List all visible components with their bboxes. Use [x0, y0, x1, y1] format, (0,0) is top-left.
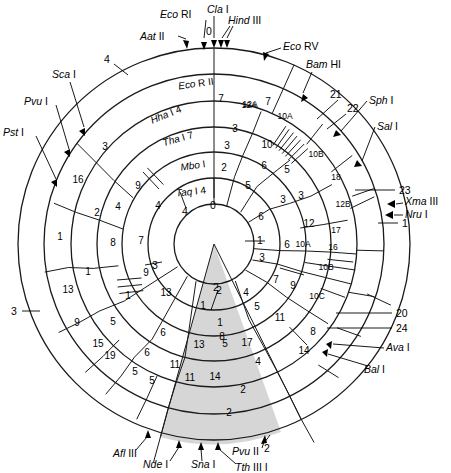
svg-text:11: 11 — [185, 372, 196, 383]
svg-text:12: 12 — [303, 218, 315, 229]
svg-text:17: 17 — [331, 225, 341, 235]
origin-zero: 0 — [206, 25, 212, 37]
label-sphi: Sph I — [369, 94, 394, 106]
svg-text:5: 5 — [284, 164, 290, 175]
label-psti: Pst I — [3, 126, 24, 138]
svg-text:10B: 10B — [318, 262, 333, 272]
svg-text:5: 5 — [222, 338, 228, 349]
label-xmaiii: Xma III — [404, 195, 438, 207]
svg-text:3: 3 — [224, 140, 230, 151]
ring-label-hhai: Hha I 4 — [149, 103, 183, 125]
leader-num-24: 24 — [396, 322, 408, 334]
label-bamhi: Bam HI — [306, 58, 341, 70]
label-sali: Sal I — [377, 120, 398, 132]
label-avai: Ava I — [385, 341, 410, 353]
svg-text:13: 13 — [62, 284, 74, 295]
svg-text:3: 3 — [298, 190, 304, 201]
label-ecorv: Eco RV — [283, 40, 318, 52]
svg-text:6: 6 — [160, 327, 166, 338]
svg-text:1: 1 — [85, 266, 91, 277]
svg-text:3: 3 — [259, 252, 265, 263]
svg-text:10A: 10A — [295, 239, 310, 249]
svg-text:9: 9 — [290, 280, 296, 291]
svg-text:1: 1 — [125, 290, 131, 301]
svg-text:10C: 10C — [309, 291, 325, 301]
svg-text:10B: 10B — [308, 149, 323, 159]
svg-text:9: 9 — [135, 180, 141, 191]
svg-text:5: 5 — [132, 366, 138, 377]
svg-text:1: 1 — [200, 300, 206, 311]
svg-text:13: 13 — [160, 287, 172, 298]
ring-label-taqi: Taq I 4 — [175, 184, 207, 198]
label-ndei: Nde I — [143, 458, 168, 470]
leader-num-4-taq: 4 — [182, 205, 188, 217]
leader-num-20: 20 — [396, 307, 408, 319]
label-snai: Sna I — [191, 458, 216, 470]
svg-text:7: 7 — [273, 274, 279, 285]
svg-text:1: 1 — [217, 317, 223, 328]
svg-text:4: 4 — [155, 200, 161, 211]
svg-text:7: 7 — [138, 235, 144, 246]
svg-text:14: 14 — [209, 371, 221, 382]
label-pvuii: Pvu II — [232, 445, 259, 457]
svg-text:3: 3 — [280, 194, 286, 205]
svg-text:3: 3 — [102, 141, 108, 152]
svg-text:10A: 10A — [277, 111, 292, 121]
svg-text:8: 8 — [110, 237, 116, 248]
label-pvui: Pvu I — [24, 95, 48, 107]
svg-text:13: 13 — [193, 339, 205, 350]
circular-restriction-map: Eco R II Hha I 4 Tha I 7 Mbo I Taq I 4 3… — [0, 0, 451, 473]
svg-text:7: 7 — [218, 93, 224, 104]
label-scai: Sca I — [52, 68, 76, 80]
svg-text:2: 2 — [226, 407, 232, 418]
svg-text:16: 16 — [328, 242, 338, 252]
leader-num-3-center: 3 — [152, 259, 158, 271]
svg-text:10: 10 — [261, 139, 273, 150]
svg-text:12B: 12B — [335, 199, 350, 209]
svg-text:5: 5 — [110, 316, 116, 327]
svg-text:6: 6 — [261, 160, 267, 171]
svg-text:11: 11 — [170, 359, 181, 370]
svg-text:2: 2 — [94, 207, 100, 218]
svg-text:7: 7 — [265, 96, 271, 107]
leader-num-1-center: 1 — [257, 234, 263, 246]
svg-text:16: 16 — [72, 174, 84, 185]
svg-text:5: 5 — [149, 375, 155, 386]
label-tthiiii: Tth III I — [235, 461, 268, 473]
ring-label-ecorii: Eco R II — [177, 75, 214, 91]
svg-text:6: 6 — [144, 347, 150, 358]
label-bali: Bal I — [364, 363, 385, 375]
svg-text:3: 3 — [232, 123, 238, 134]
ring-label-mboi: Mbo I — [180, 158, 206, 172]
svg-text:4: 4 — [115, 201, 121, 212]
leader-num-2-bottom: 2 — [264, 442, 270, 454]
svg-text:11: 11 — [275, 312, 286, 323]
leader-num-4: 4 — [104, 53, 110, 65]
svg-text:4: 4 — [243, 287, 249, 298]
svg-text:18: 18 — [331, 172, 341, 182]
svg-text:15: 15 — [92, 338, 104, 349]
ring-label-thai: Tha I 7 — [161, 128, 194, 147]
svg-text:1: 1 — [57, 231, 63, 242]
svg-text:2: 2 — [240, 384, 246, 395]
svg-text:6: 6 — [284, 239, 290, 250]
leader-num-2-wedge: 2 — [213, 281, 219, 293]
svg-text:2: 2 — [221, 162, 227, 173]
svg-text:9: 9 — [74, 317, 80, 328]
svg-text:17: 17 — [241, 337, 253, 348]
leader-num-0-inner: 0 — [210, 199, 216, 211]
svg-text:4: 4 — [255, 356, 261, 367]
label-afliii: Afl III — [112, 447, 137, 459]
label-aatii: Aat II — [139, 30, 165, 42]
svg-text:14: 14 — [298, 345, 310, 356]
label-nrui: Nru I — [405, 208, 428, 220]
label-ecori: Eco RI — [160, 8, 192, 20]
leader-num-21: 21 — [330, 88, 342, 100]
svg-text:5: 5 — [245, 180, 251, 191]
svg-text:6: 6 — [258, 211, 264, 222]
svg-text:12A: 12A — [241, 100, 256, 110]
label-hindiii: Hind III — [228, 14, 261, 26]
svg-text:9: 9 — [143, 267, 149, 278]
label-clai: Cla I — [207, 3, 229, 15]
leader-num-3-left: 3 — [11, 305, 17, 317]
